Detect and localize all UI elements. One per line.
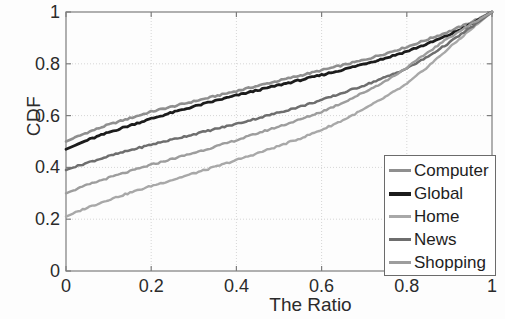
y-tick-label: 1: [14, 2, 60, 23]
x-tick-label: 0.6: [309, 276, 334, 297]
legend-item-label: Home: [414, 208, 459, 225]
legend-swatch-line-icon: [389, 215, 411, 218]
x-tick-label: 0.8: [394, 276, 419, 297]
legend-swatch-line-icon: [389, 238, 411, 241]
legend-item-news[interactable]: News: [389, 228, 495, 251]
legend-item-computer[interactable]: Computer: [389, 159, 495, 182]
x-axis-label-text: The Ratio: [269, 294, 351, 315]
x-tick-label: 0.4: [224, 276, 249, 297]
legend-item-label: Global: [414, 185, 463, 202]
y-tick-label: 0.2: [14, 209, 60, 230]
y-tick-label: 0.8: [14, 53, 60, 74]
y-tick-label: 0: [14, 261, 60, 282]
series-line-computer: [66, 12, 492, 142]
cdf-chart-figure: CDF The Ratio 00.20.40.60.8100.20.40.60.…: [0, 0, 505, 319]
x-tick-label: 1: [487, 276, 497, 297]
x-axis-label: The Ratio: [0, 294, 505, 316]
legend-swatch-line-icon: [389, 169, 411, 172]
legend-item-label: Computer: [414, 162, 489, 179]
y-tick-label: 0.6: [14, 105, 60, 126]
legend-item-shopping[interactable]: Shopping: [389, 251, 495, 274]
legend-swatch-line-icon: [389, 261, 411, 264]
legend-item-label: Shopping: [414, 254, 486, 271]
x-tick-label: 0.2: [139, 276, 164, 297]
x-tick-label: 0: [61, 276, 71, 297]
legend-item-label: News: [414, 231, 457, 248]
legend-item-home[interactable]: Home: [389, 205, 495, 228]
legend-swatch-line-icon: [389, 192, 411, 196]
legend-item-global[interactable]: Global: [389, 182, 495, 205]
y-tick-label: 0.4: [14, 157, 60, 178]
chart-legend: ComputerGlobalHomeNewsShopping: [384, 155, 496, 276]
